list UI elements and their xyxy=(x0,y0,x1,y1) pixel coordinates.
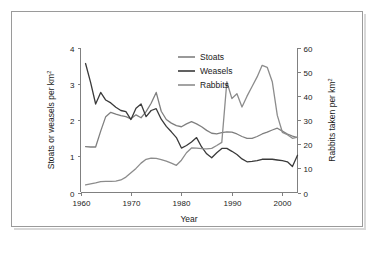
x-axis-title: Year xyxy=(180,214,197,224)
y-axis-title-right: Rabbits taken per km2 xyxy=(327,78,337,161)
y-ticklabel-right: 60 xyxy=(304,45,313,54)
y-ticklabel-right: 20 xyxy=(304,141,313,150)
legend-item-weasels: Weasels xyxy=(178,66,232,76)
series-line-rabbits xyxy=(86,65,298,184)
y-ticklabel-left: 1 xyxy=(70,153,75,162)
y-ticklabel-right: 10 xyxy=(304,165,313,174)
svg-text:Rabbits taken per km2: Rabbits taken per km2 xyxy=(327,78,337,161)
x-ticklabel: 1960 xyxy=(73,199,91,208)
x-ticklabel: 1990 xyxy=(224,199,242,208)
y-ticklabel-right: 50 xyxy=(304,69,313,78)
x-ticklabel: 2000 xyxy=(274,199,292,208)
axis-right: 0102030405060 xyxy=(298,45,313,199)
y-axis-title-left: Stoats or weasels per km2 xyxy=(46,71,56,170)
chart-legend: StoatsWeaselsRabbits xyxy=(178,52,232,90)
axis-bottom: 19601970198019902000 xyxy=(73,193,298,208)
y-ticklabel-right: 30 xyxy=(304,117,313,126)
figure-page: 01234 0102030405060 19601970198019902000… xyxy=(0,0,392,259)
y-ticklabel-left: 4 xyxy=(70,45,75,54)
legend-label-stoats: Stoats xyxy=(200,52,224,62)
y-ticklabel-right: 0 xyxy=(304,190,309,199)
y-ticklabel-right: 40 xyxy=(304,93,313,102)
y-ticklabel-left: 2 xyxy=(70,117,75,126)
legend-item-rabbits: Rabbits xyxy=(178,80,229,90)
x-ticklabel: 1970 xyxy=(123,199,141,208)
y-ticklabel-left: 0 xyxy=(70,190,75,199)
legend-item-stoats: Stoats xyxy=(178,52,224,62)
legend-label-rabbits: Rabbits xyxy=(200,80,229,90)
series-line-stoats xyxy=(86,92,298,147)
x-ticklabel: 1980 xyxy=(173,199,191,208)
series-layer xyxy=(86,64,298,185)
line-chart: 01234 0102030405060 19601970198019902000… xyxy=(0,0,392,259)
y-ticklabel-left: 3 xyxy=(70,81,75,90)
legend-label-weasels: Weasels xyxy=(200,66,232,76)
svg-text:Stoats or weasels per km2: Stoats or weasels per km2 xyxy=(46,71,56,170)
axis-left: 01234 xyxy=(70,45,80,199)
